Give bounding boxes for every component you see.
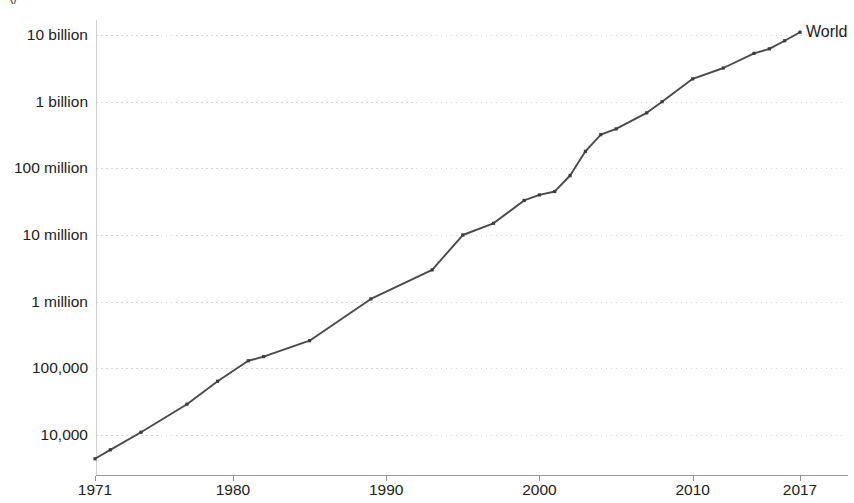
y-tick-label: 10 billion <box>0 26 88 44</box>
y-tick-label: 1 billion <box>0 93 88 111</box>
chart-root: y 10 billion1 billion100 million10 milli… <box>0 0 854 503</box>
gridline <box>96 235 846 236</box>
gridline <box>96 435 846 436</box>
gridline <box>96 35 846 36</box>
gridline <box>96 302 846 303</box>
x-tick-label: 1980 <box>216 481 250 499</box>
gridline <box>96 102 846 103</box>
x-tick-label: 2017 <box>783 481 817 499</box>
y-axis-tick-labels: 10 billion1 billion100 million10 million… <box>0 0 88 503</box>
y-tick-label: 1 million <box>0 293 88 311</box>
x-axis-spine <box>96 475 848 476</box>
x-tick-label: 2010 <box>675 481 709 499</box>
x-tick-label: 1971 <box>78 481 112 499</box>
y-tick-label: 10,000 <box>0 426 88 444</box>
plot-area <box>96 10 846 475</box>
x-tick-label: 1990 <box>369 481 403 499</box>
y-tick-label: 100,000 <box>0 359 88 377</box>
series-end-label-world: World <box>806 23 848 41</box>
y-tick-label: 10 million <box>0 226 88 244</box>
y-tick-label: 100 million <box>0 159 88 177</box>
x-tick-label: 2000 <box>522 481 556 499</box>
gridline <box>96 368 846 369</box>
gridline <box>96 168 846 169</box>
